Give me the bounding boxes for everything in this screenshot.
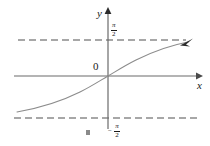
lower-minus-sign: −: [108, 128, 112, 135]
lower-numerator: π: [114, 123, 120, 130]
lower-fraction: π 2: [114, 123, 120, 140]
curve-tip-arrowhead: [180, 39, 193, 47]
upper-asymptote-label: π 2: [111, 22, 117, 39]
arctan-curve: [17, 42, 188, 112]
upper-numerator: π: [111, 22, 117, 29]
y-axis-arrowhead: [105, 7, 112, 14]
upper-fraction: π 2: [111, 22, 117, 39]
upper-denominator: 2: [111, 31, 117, 38]
y-axis-label: y: [97, 8, 102, 19]
figure-corner-mark: [86, 130, 90, 135]
origin-label: 0: [93, 61, 99, 72]
x-axis-label: x: [197, 80, 202, 91]
lower-denominator: 2: [114, 132, 120, 139]
plot-canvas: [0, 0, 210, 146]
arctangent-figure: y x 0 π 2 − π 2: [0, 0, 210, 146]
lower-asymptote-label: − π 2: [108, 123, 120, 140]
